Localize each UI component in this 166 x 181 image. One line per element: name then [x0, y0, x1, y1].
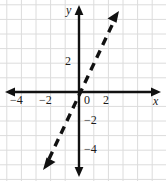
x-axis-label: x: [153, 95, 158, 107]
line-lower-arrowhead: [43, 158, 56, 170]
y-axis-label: y: [66, 4, 71, 16]
y-axis-top-arrowhead: [75, 5, 84, 15]
origin-label: 0: [84, 94, 90, 106]
plot-canvas: [0, 0, 166, 181]
y-tick-label-pos2: 2: [65, 55, 71, 67]
line-upper-arrowhead: [108, 11, 120, 23]
y-tick-label-neg2: −2: [84, 114, 97, 126]
y-axis-bottom-arrowhead: [75, 167, 84, 177]
x-tick-label-pos2: 2: [103, 94, 109, 106]
y-tick-label-neg4: −4: [84, 143, 97, 155]
x-tick-label-neg2: −2: [39, 94, 52, 106]
x-tick-label-neg4: −4: [10, 94, 23, 106]
coordinate-graph: −4 −2 0 2 2 −2 −4 x y: [0, 0, 166, 181]
dashed-line-series: [43, 11, 119, 170]
